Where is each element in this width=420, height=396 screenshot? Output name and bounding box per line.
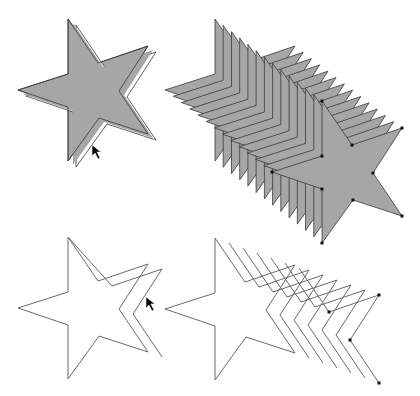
blend-step-path[interactable] <box>299 268 379 383</box>
drawing-canvas[interactable] <box>0 0 420 396</box>
anchor-node[interactable] <box>320 155 323 158</box>
anchor-node[interactable] <box>320 242 323 245</box>
anchor-node[interactable] <box>371 172 374 175</box>
blend-step-path <box>271 258 351 373</box>
anchor-node[interactable] <box>349 339 352 342</box>
anchor-node[interactable] <box>328 311 331 314</box>
star-outline-original[interactable] <box>18 237 148 379</box>
anchor-node[interactable] <box>320 100 323 103</box>
star-outline-front[interactable] <box>165 238 295 380</box>
anchor-node[interactable] <box>378 382 381 385</box>
blend-step-path <box>257 253 337 368</box>
star-blend-illustration <box>0 0 420 396</box>
mouse-pointer-icon <box>146 297 155 311</box>
anchor-node[interactable] <box>270 171 273 174</box>
blend-step-path <box>285 263 365 378</box>
anchor-node[interactable] <box>378 294 381 297</box>
anchor-node[interactable] <box>400 215 403 218</box>
anchor-node[interactable] <box>320 188 323 191</box>
anchor-node[interactable] <box>400 127 403 130</box>
mouse-pointer-icon <box>92 145 101 159</box>
anchor-node[interactable] <box>350 144 353 147</box>
blend-step-path <box>243 248 323 363</box>
star-outline-duplicate-path[interactable] <box>68 237 162 357</box>
anchor-node[interactable] <box>351 199 354 202</box>
blend-step-path <box>229 243 309 358</box>
